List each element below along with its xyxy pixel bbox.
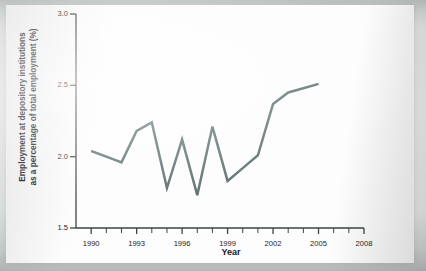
y-axis-title-line2: as a percentage of total employment (%) [28, 2, 39, 212]
x-axis-title-text: Year [221, 247, 240, 257]
data-line [91, 84, 318, 195]
axis-lines [76, 14, 364, 228]
y-axis-tick-label: 1.5 [28, 223, 68, 232]
y-axis-title-line1: Employment at depository institutions [17, 2, 28, 212]
x-axis-ticks [91, 228, 364, 234]
figure-root: 1.52.02.53.0 199019931996199920022005200… [0, 0, 426, 271]
x-axis-title: Year [0, 247, 426, 257]
y-axis-title: Employment at depository institutions as… [17, 2, 39, 212]
y-axis-ticks [70, 14, 76, 228]
data-line-highlight [91, 84, 318, 195]
